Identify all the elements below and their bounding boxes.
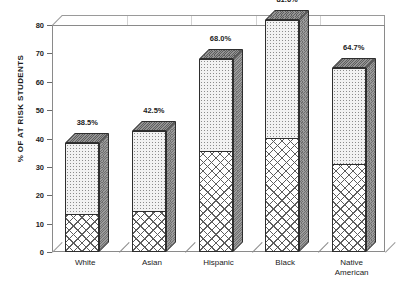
bar-segment-upper — [133, 132, 165, 211]
bar-segment-upper — [266, 21, 298, 139]
bar-segment-upper — [66, 144, 98, 215]
bar-value-label: 81.6% — [257, 0, 317, 4]
bars-layer: 38.5%White42.5%Asian68.0%Hispanic81.6%Bl… — [0, 0, 401, 281]
bar-value-label: 64.7% — [324, 43, 384, 52]
bar-segment-upper — [333, 69, 365, 165]
base-depth-tick — [252, 242, 263, 253]
category-label-hispanic: Hispanic — [184, 258, 254, 268]
bar-chart: % OF AT RISK STUDENTS 80 70 60 50 40 30 … — [0, 0, 401, 281]
bar-segment-lower — [200, 152, 232, 252]
bar-front-face — [65, 143, 99, 252]
category-label-white: White — [50, 258, 120, 268]
bar-segment-lower — [333, 165, 365, 252]
bar-white — [65, 133, 109, 252]
bar-side-face — [366, 58, 376, 252]
bar-segment-upper — [200, 60, 232, 152]
bar-segment-lower — [133, 212, 165, 252]
base-depth-tick — [185, 242, 196, 253]
bar-side-face — [299, 10, 309, 252]
bar-segment-lower — [66, 215, 98, 252]
bar-value-label: 38.5% — [57, 118, 117, 127]
bar-front-face — [265, 20, 299, 252]
bar-side-face — [233, 49, 243, 252]
bar-side-face — [99, 133, 109, 252]
category-label-asian: Asian — [117, 258, 187, 268]
category-label-native-american: NativeAmerican — [317, 258, 387, 278]
base-depth-tick — [119, 242, 130, 253]
bar-front-face — [199, 59, 233, 252]
bar-black — [265, 10, 309, 252]
category-label-black: Black — [250, 258, 320, 268]
bar-asian — [132, 121, 176, 252]
bar-value-label: 68.0% — [191, 34, 251, 43]
bar-hispanic — [199, 49, 243, 252]
bar-value-label: 42.5% — [124, 106, 184, 115]
bar-front-face — [132, 131, 166, 252]
bar-native-american — [332, 58, 376, 252]
bar-segment-lower — [266, 139, 298, 252]
bar-side-face — [166, 121, 176, 252]
bar-front-face — [332, 68, 366, 252]
base-depth-tick — [318, 242, 329, 253]
